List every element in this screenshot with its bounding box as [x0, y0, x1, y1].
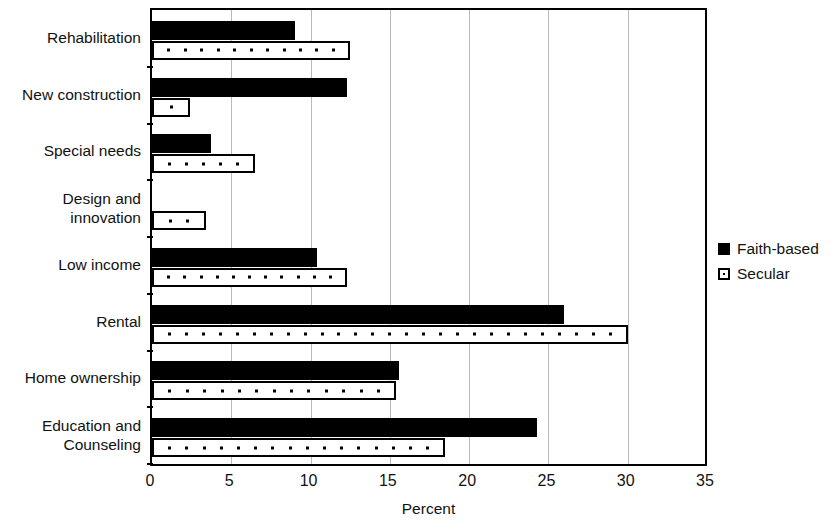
dot — [304, 333, 307, 336]
dot — [200, 49, 203, 52]
dot — [490, 333, 493, 336]
dot — [167, 49, 170, 52]
bar-group — [152, 237, 705, 294]
dot — [456, 333, 459, 336]
y-axis-label: Design and innovation — [0, 189, 141, 227]
dot — [558, 333, 561, 336]
y-axis-label: Education and Counseling — [0, 416, 141, 454]
dot — [202, 162, 205, 165]
dot — [255, 389, 258, 392]
dot — [273, 389, 276, 392]
bar-faith-based — [152, 78, 347, 97]
dot — [575, 333, 578, 336]
bar-dot-pattern — [154, 106, 188, 109]
y-axis-label: Special needs — [0, 141, 141, 160]
dot — [219, 162, 222, 165]
dot — [202, 333, 205, 336]
dot — [186, 219, 189, 222]
dot — [183, 276, 186, 279]
dot — [306, 446, 309, 449]
bar-dot-pattern — [154, 49, 348, 52]
y-tick — [147, 350, 153, 352]
dot — [290, 389, 293, 392]
bar-dot-pattern — [154, 162, 253, 165]
dot — [270, 333, 273, 336]
legend-item-secular: Secular — [718, 265, 819, 283]
dot — [299, 49, 302, 52]
legend-label-faith-based: Faith-based — [737, 240, 819, 258]
dot — [200, 276, 203, 279]
dot — [340, 446, 343, 449]
bar-dot-pattern — [154, 333, 626, 336]
dot — [321, 333, 324, 336]
x-tick-label-15: 15 — [368, 472, 408, 490]
bar-dot-pattern — [154, 389, 394, 392]
dot — [283, 49, 286, 52]
y-axis-label: Rental — [0, 312, 141, 331]
y-axis-label: New construction — [0, 85, 141, 104]
filled-square-icon — [718, 243, 730, 255]
bar-group — [152, 10, 705, 67]
dot — [541, 333, 544, 336]
dot — [287, 333, 290, 336]
dot — [216, 276, 219, 279]
bar-group — [152, 180, 705, 237]
dot — [186, 389, 189, 392]
bar-secular — [152, 98, 190, 117]
bar-secular — [152, 41, 350, 60]
dot — [250, 49, 253, 52]
bar-faith-based — [152, 418, 537, 437]
bar-dot-pattern — [154, 219, 204, 222]
dot — [609, 333, 612, 336]
dot — [409, 446, 412, 449]
dot — [375, 446, 378, 449]
bar-dot-pattern — [154, 276, 345, 279]
dot — [313, 276, 316, 279]
bar-faith-based — [152, 248, 317, 267]
dot — [185, 162, 188, 165]
x-tick-label-25: 25 — [526, 472, 566, 490]
dot — [232, 276, 235, 279]
dot — [236, 162, 239, 165]
dot — [342, 389, 345, 392]
dot — [289, 446, 292, 449]
x-axis-title: Percent — [150, 500, 707, 518]
plot-inner — [152, 10, 705, 464]
dot — [307, 389, 310, 392]
dot — [221, 389, 224, 392]
x-tick-label-10: 10 — [289, 472, 329, 490]
dot — [266, 49, 269, 52]
dot — [388, 333, 391, 336]
dot — [233, 49, 236, 52]
x-tick-label-35: 35 — [685, 472, 725, 490]
bar-group — [152, 124, 705, 181]
dot — [203, 446, 206, 449]
dot — [524, 333, 527, 336]
dot — [238, 389, 241, 392]
bar-secular — [152, 268, 347, 287]
dotted-square-icon — [718, 268, 730, 280]
bar-group — [152, 407, 705, 464]
dot — [236, 333, 239, 336]
dot — [357, 446, 360, 449]
bar-faith-based — [152, 361, 399, 380]
bar-faith-based — [152, 21, 295, 40]
y-axis-label: Low income — [0, 255, 141, 274]
legend-item-faith-based: Faith-based — [718, 240, 819, 258]
y-tick — [147, 179, 153, 181]
dot — [297, 276, 300, 279]
dot — [592, 333, 595, 336]
dot — [332, 49, 335, 52]
bar-secular — [152, 381, 396, 400]
dot — [185, 333, 188, 336]
dot — [237, 446, 240, 449]
dot — [426, 446, 429, 449]
dot — [439, 333, 442, 336]
bar-group — [152, 67, 705, 124]
dot — [337, 333, 340, 336]
y-tick — [147, 123, 153, 125]
dot — [167, 276, 170, 279]
x-tick-label-20: 20 — [447, 472, 487, 490]
dot — [405, 333, 408, 336]
bar-secular — [152, 325, 628, 344]
